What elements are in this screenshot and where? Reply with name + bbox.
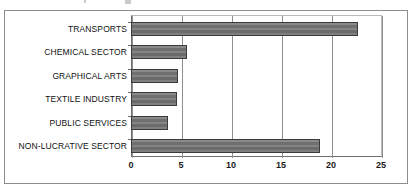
- category-label-non-lucrative-sector: NON-LUCRATIVE SECTOR: [19, 141, 127, 151]
- x-tick-label-0: 0: [116, 160, 146, 170]
- gridline-10: [232, 16, 233, 158]
- x-tick-label-15: 15: [266, 160, 296, 170]
- x-tick-label-10: 10: [216, 160, 246, 170]
- plot-area: [131, 15, 382, 157]
- bar-textile-industry: [131, 92, 177, 106]
- gridline-20: [332, 16, 333, 158]
- x-tick-label-20: 20: [316, 160, 346, 170]
- bar-chart: TRANSPORTS CHEMICAL SECTOR GRAPHICAL ART…: [0, 0, 413, 190]
- bar-graphical-arts: [131, 69, 178, 83]
- category-label-transports: TRANSPORTS: [68, 24, 127, 34]
- category-label-row: CHEMICAL SECTOR: [0, 45, 127, 59]
- bar-transports: [131, 22, 358, 36]
- bar-public-services: [131, 116, 168, 130]
- category-label-textile-industry: TEXTILE INDUSTRY: [45, 94, 127, 104]
- category-label-row: GRAPHICAL ARTS: [0, 69, 127, 83]
- category-label-chemical-sector: CHEMICAL SECTOR: [44, 47, 127, 57]
- gridline-25: [382, 16, 383, 158]
- category-label-row: TEXTILE INDUSTRY: [0, 92, 127, 106]
- category-label-row: NON-LUCRATIVE SECTOR: [0, 139, 127, 153]
- x-tick-label-25: 25: [366, 160, 396, 170]
- bar-chemical-sector: [131, 45, 187, 59]
- category-label-graphical-arts: GRAPHICAL ARTS: [52, 71, 127, 81]
- gridline-15: [282, 16, 283, 158]
- category-label-row: TRANSPORTS: [0, 22, 127, 36]
- category-label-row: PUBLIC SERVICES: [0, 116, 127, 130]
- gridline-5: [182, 16, 183, 158]
- bar-non-lucrative-sector: [131, 139, 320, 153]
- gridline-0: [132, 16, 133, 158]
- chart-screenshot: TRANSPORTS CHEMICAL SECTOR GRAPHICAL ART…: [0, 0, 413, 190]
- category-label-public-services: PUBLIC SERVICES: [50, 118, 127, 128]
- x-tick-label-5: 5: [166, 160, 196, 170]
